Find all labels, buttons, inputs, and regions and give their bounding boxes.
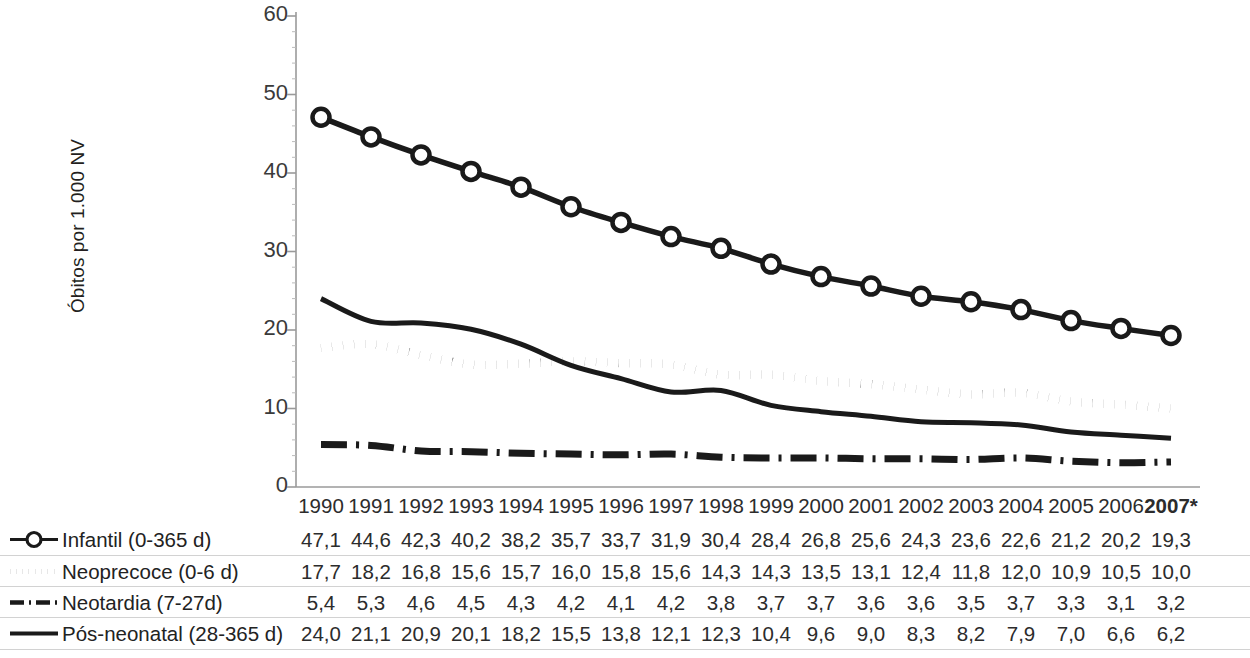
table-cell: 12,3 xyxy=(701,618,741,649)
x-tick-label: 1998 xyxy=(698,494,744,518)
table-cell: 9,0 xyxy=(857,618,886,649)
table-cell: 4,5 xyxy=(457,587,486,618)
series-marker xyxy=(863,278,880,295)
table-cell: 15,6 xyxy=(451,556,491,587)
series-line-2 xyxy=(321,445,1171,463)
table-cell: 3,6 xyxy=(857,587,886,618)
table-cell: 44,6 xyxy=(351,524,391,555)
series-marker xyxy=(813,268,830,285)
legend-label: Neoprecoce (0-6 d) xyxy=(62,556,239,587)
x-tick-label: 2001 xyxy=(848,494,894,518)
table-cell: 12,4 xyxy=(901,556,941,587)
series-marker xyxy=(513,179,530,196)
legend-glyph xyxy=(8,556,60,587)
legend-line-sample xyxy=(8,618,60,649)
legend-label: Neotardia (7-27d) xyxy=(62,587,223,618)
table-cell: 3,6 xyxy=(907,587,936,618)
table-cell: 3,5 xyxy=(957,587,986,618)
table-cell: 4,3 xyxy=(507,587,536,618)
table-cell: 21,2 xyxy=(1051,524,1091,555)
table-cell: 3,7 xyxy=(1007,587,1036,618)
series-marker xyxy=(463,163,480,180)
series-marker xyxy=(413,146,430,163)
table-cell: 35,7 xyxy=(551,524,591,555)
series-marker xyxy=(363,128,380,145)
table-cell: 7,0 xyxy=(1057,618,1086,649)
table-cell: 4,1 xyxy=(607,587,636,618)
legend-line-sample xyxy=(8,556,60,587)
table-cell: 28,4 xyxy=(751,524,791,555)
table-cell: 25,6 xyxy=(851,524,891,555)
table-cell: 19,3 xyxy=(1151,524,1191,555)
legend-marker xyxy=(27,533,41,547)
series-marker xyxy=(713,240,730,257)
table-cell: 3,7 xyxy=(807,587,836,618)
table-cell: 17,7 xyxy=(301,556,341,587)
table-cell: 8,2 xyxy=(957,618,986,649)
table-cell: 6,2 xyxy=(1157,618,1186,649)
table-cell: 15,8 xyxy=(601,556,641,587)
series-marker xyxy=(563,198,580,215)
series-data-table: Infantil (0-365 d)47,144,642,340,238,235… xyxy=(0,521,1250,658)
table-cell: 20,2 xyxy=(1101,524,1141,555)
legend-line-sample xyxy=(8,587,60,618)
table-cell: 16,0 xyxy=(551,556,591,587)
table-cell: 3,8 xyxy=(707,587,736,618)
legend-glyph xyxy=(8,587,60,618)
table-cell: 14,3 xyxy=(751,556,791,587)
x-tick-label: 1996 xyxy=(598,494,644,518)
table-cell: 3,7 xyxy=(757,587,786,618)
table-cell: 11,8 xyxy=(952,556,990,587)
table-cell: 5,3 xyxy=(357,587,386,618)
table-cell: 24,0 xyxy=(301,618,341,649)
table-cell: 7,9 xyxy=(1007,618,1036,649)
x-tick-label: 2005 xyxy=(1048,494,1094,518)
table-cell: 3,1 xyxy=(1107,587,1136,618)
series-marker xyxy=(313,109,330,126)
table-row: Pós-neonatal (28-365 d)24,021,120,920,11… xyxy=(0,617,1250,650)
table-cell: 12,1 xyxy=(651,618,691,649)
series-line-3 xyxy=(321,299,1171,439)
table-cell: 20,1 xyxy=(451,618,491,649)
table-cell: 22,6 xyxy=(1001,524,1041,555)
table-cell: 23,6 xyxy=(951,524,991,555)
series-marker xyxy=(913,288,930,305)
series-marker xyxy=(1163,327,1180,344)
table-cell: 40,2 xyxy=(451,524,491,555)
x-tick-label: 2000 xyxy=(798,494,844,518)
chart-canvas xyxy=(0,0,1250,520)
table-cell: 21,1 xyxy=(351,618,391,649)
table-cell: 18,2 xyxy=(351,556,391,587)
x-tick-label: 1995 xyxy=(548,494,594,518)
x-tick-label: 1991 xyxy=(348,494,394,518)
series-line-0 xyxy=(321,117,1171,335)
table-cell: 18,2 xyxy=(501,618,541,649)
table-cell: 10,0 xyxy=(1151,556,1191,587)
table-cell: 4,2 xyxy=(657,587,686,618)
table-cell: 15,7 xyxy=(501,556,541,587)
table-cell: 12,0 xyxy=(1001,556,1041,587)
table-cell: 15,5 xyxy=(551,618,591,649)
x-tick-label: 2007* xyxy=(1144,494,1198,518)
table-cell: 8,3 xyxy=(907,618,936,649)
table-cell: 16,8 xyxy=(401,556,441,587)
x-tick-label: 2003 xyxy=(948,494,994,518)
table-cell: 47,1 xyxy=(301,524,341,555)
series-marker xyxy=(613,214,630,231)
series-marker xyxy=(1013,301,1030,318)
table-cell: 10,4 xyxy=(751,618,791,649)
table-cell: 13,5 xyxy=(801,556,841,587)
table-cell: 9,6 xyxy=(807,618,836,649)
table-cell: 20,9 xyxy=(401,618,441,649)
x-tick-label: 2004 xyxy=(998,494,1044,518)
x-tick-label: 2006 xyxy=(1098,494,1144,518)
legend-label: Infantil (0-365 d) xyxy=(62,524,211,555)
plot-area: Óbitos por 1.000 NV 0102030405060 199019… xyxy=(0,0,1250,520)
table-cell: 13,8 xyxy=(601,618,641,649)
legend-label: Pós-neonatal (28-365 d) xyxy=(62,618,283,649)
x-tick-label: 1993 xyxy=(448,494,494,518)
table-row: Infantil (0-365 d)47,144,642,340,238,235… xyxy=(0,524,1250,555)
x-tick-label: 1999 xyxy=(748,494,794,518)
table-cell: 4,6 xyxy=(407,587,436,618)
table-cell: 3,3 xyxy=(1057,587,1086,618)
